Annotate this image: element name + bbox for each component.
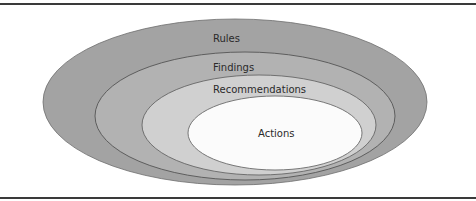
nested-ellipse-diagram: Rules Findings Recommendations Actions [0,0,476,201]
bottom-rule-line [0,197,476,199]
actions-label: Actions [258,128,295,139]
rules-label: Rules [213,33,240,44]
findings-label: Findings [213,62,254,73]
recommendations-label: Recommendations [213,84,306,95]
